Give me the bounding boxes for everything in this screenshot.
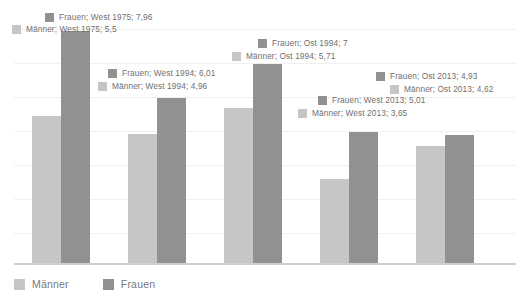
data-label-text: Frauen; West 1975; 7,96: [59, 12, 152, 22]
data-label-frauen-west-2013: Frauen; West 2013; 5,01: [318, 95, 425, 105]
data-label-text: Männer; West 1994; 4,96: [112, 81, 207, 91]
data-label-swatch-maenner-icon: [390, 85, 399, 94]
bar[interactable]: [61, 31, 90, 263]
legend-item-maenner[interactable]: Männer: [14, 278, 69, 290]
bar-chart: Frauen; West 1975; 7,96Männer; West 1975…: [0, 0, 522, 305]
bar[interactable]: [416, 146, 445, 263]
bar[interactable]: [157, 98, 186, 263]
bar[interactable]: [320, 179, 349, 263]
data-label-frauen-ost-1994: Frauen; Ost 1994; 7: [258, 38, 348, 48]
bar[interactable]: [224, 108, 253, 263]
bar[interactable]: [32, 116, 61, 263]
data-label-swatch-frauen-icon: [318, 96, 327, 105]
data-label-text: Männer; West 1975; 5,5: [26, 24, 117, 34]
legend-label-frauen: Frauen: [121, 278, 155, 290]
x-axis-baseline: [14, 263, 516, 265]
data-label-text: Frauen; West 2013; 5,01: [332, 95, 425, 105]
legend-swatch-maenner-icon: [14, 279, 25, 290]
legend-item-frauen[interactable]: Frauen: [103, 278, 155, 290]
data-label-frauen-west-1975: Frauen; West 1975; 7,96: [45, 12, 152, 22]
data-label-text: Männer; Ost 2013; 4,62: [404, 84, 493, 94]
data-label-text: Frauen; West 1994; 6,01: [122, 68, 215, 78]
data-label-frauen-ost-2013: Frauen; Ost 2013; 4,93: [376, 71, 478, 81]
data-label-maenner-west-1975: Männer; West 1975; 5,5: [12, 24, 117, 34]
data-label-swatch-maenner-icon: [12, 25, 21, 34]
data-label-swatch-frauen-icon: [376, 72, 385, 81]
data-label-swatch-frauen-icon: [258, 39, 267, 48]
data-label-text: Männer; West 2013; 3,65: [312, 108, 407, 118]
bar[interactable]: [445, 135, 474, 263]
data-label-text: Frauen; Ost 2013; 4,93: [390, 71, 478, 81]
legend: Männer Frauen: [14, 278, 155, 290]
data-label-swatch-maenner-icon: [98, 82, 107, 91]
bar[interactable]: [349, 132, 378, 263]
bar[interactable]: [128, 134, 157, 263]
data-label-swatch-maenner-icon: [298, 109, 307, 118]
data-label-maenner-ost-1994: Männer; Ost 1994; 5,71: [232, 51, 335, 61]
data-label-maenner-ost-2013: Männer; Ost 2013; 4,62: [390, 84, 493, 94]
data-label-swatch-maenner-icon: [232, 52, 241, 61]
data-label-swatch-frauen-icon: [108, 69, 117, 78]
data-label-text: Frauen; Ost 1994; 7: [272, 38, 348, 48]
legend-label-maenner: Männer: [32, 278, 69, 290]
legend-swatch-frauen-icon: [103, 279, 114, 290]
data-label-maenner-west-1994: Männer; West 1994; 4,96: [98, 81, 207, 91]
data-label-maenner-west-2013: Männer; West 2013; 3,65: [298, 108, 407, 118]
data-label-frauen-west-1994: Frauen; West 1994; 6,01: [108, 68, 215, 78]
data-label-swatch-frauen-icon: [45, 13, 54, 22]
data-label-text: Männer; Ost 1994; 5,71: [246, 51, 335, 61]
bar[interactable]: [253, 64, 282, 263]
